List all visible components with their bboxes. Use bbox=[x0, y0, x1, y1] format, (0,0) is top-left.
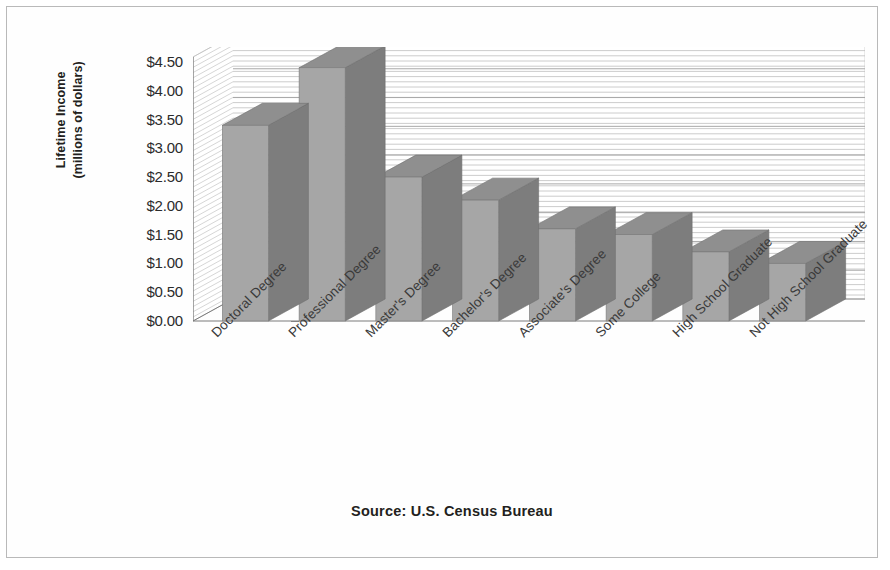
y-tick-label: $4.50 bbox=[146, 53, 183, 70]
figure-frame: Lifetime Income (millions of dollars) $0… bbox=[6, 6, 878, 558]
y-tick-label: $3.00 bbox=[146, 139, 183, 156]
y-tick-label: $0.50 bbox=[146, 283, 183, 300]
y-tick-label: $1.00 bbox=[146, 254, 183, 271]
y-tick-label: $1.50 bbox=[146, 226, 183, 243]
y-tick-label: $4.00 bbox=[146, 82, 183, 99]
bar-column bbox=[453, 178, 539, 321]
y-axis-title-line-1: Lifetime Income bbox=[53, 5, 70, 235]
y-tick-label: $2.50 bbox=[146, 168, 183, 185]
y-tick-label: $0.00 bbox=[146, 312, 183, 329]
y-tick-label: $2.00 bbox=[146, 197, 183, 214]
bar-column bbox=[222, 103, 308, 321]
y-axis-title-line-2: (millions of dollars) bbox=[70, 5, 87, 235]
bar-chart-canvas bbox=[193, 47, 865, 325]
bar-column bbox=[606, 213, 692, 321]
bar-column bbox=[299, 47, 385, 321]
bar-column bbox=[529, 207, 615, 321]
y-axis-title: Lifetime Income (millions of dollars) bbox=[53, 5, 87, 235]
bar-column bbox=[376, 155, 462, 321]
plot-area bbox=[193, 47, 865, 325]
source-note: Source: U.S. Census Bureau bbox=[7, 503, 890, 519]
y-tick-label: $3.50 bbox=[146, 111, 183, 128]
